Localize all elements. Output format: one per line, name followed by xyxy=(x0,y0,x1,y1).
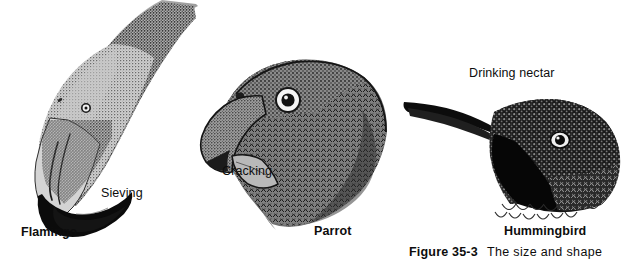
parrot-upper-beak xyxy=(201,96,266,173)
flamingo-eye xyxy=(82,104,90,112)
parrot-eye-ring xyxy=(276,88,300,112)
flamingo-head-highlight xyxy=(50,50,116,172)
flamingo-nostril xyxy=(57,97,63,102)
hummingbird-throat-scallops xyxy=(495,203,600,219)
parrot-crown-outline xyxy=(236,61,386,132)
hummingbird-head xyxy=(490,99,620,212)
hummingbird-species-label: Hummingbird xyxy=(504,224,586,238)
hummingbird-bill-lower xyxy=(408,108,518,152)
flamingo-species-label: Flamingo xyxy=(21,225,77,239)
flamingo-head-illustration xyxy=(12,0,212,240)
flamingo-head xyxy=(38,44,154,206)
figure-caption: Figure 35-3The size and shape xyxy=(409,245,602,259)
flamingo-action-label: Sieving xyxy=(101,186,143,200)
flamingo-bill-groove-1 xyxy=(50,142,58,200)
parrot-throat-point xyxy=(254,200,276,230)
figure-caption-text: The size and shape xyxy=(487,245,602,259)
hummingbird-eye-ring xyxy=(551,132,570,148)
parrot-head-illustration xyxy=(196,52,406,232)
parrot-nostril xyxy=(236,93,244,100)
flamingo-bill-groove-2 xyxy=(58,134,70,204)
parrot-eye xyxy=(281,93,294,106)
parrot-nape-shadow xyxy=(308,92,376,224)
hummingbird-eye xyxy=(555,135,565,145)
hummingbird-head-illustration xyxy=(398,78,628,223)
figure-35-3: Sieving Flamingo xyxy=(0,0,629,264)
parrot-eye-highlight xyxy=(284,96,288,100)
parrot-species-label: Parrot xyxy=(314,224,351,238)
flamingo-pupil xyxy=(85,107,88,110)
hummingbird-action-label: Drinking nectar xyxy=(469,66,555,80)
flamingo-bill-edge-line xyxy=(76,208,108,214)
figure-caption-number: Figure 35-3 xyxy=(409,245,478,259)
hummingbird-eye-highlight xyxy=(556,136,559,139)
parrot-action-label: Cracking xyxy=(222,164,272,178)
hummingbird-malar-stripe xyxy=(492,134,562,210)
hummingbird-gorget xyxy=(548,164,618,210)
flamingo-neck xyxy=(111,0,198,62)
parrot-head-silhouette xyxy=(205,60,387,227)
hummingbird-bill xyxy=(404,102,523,148)
flamingo-upper-bill xyxy=(35,118,100,218)
